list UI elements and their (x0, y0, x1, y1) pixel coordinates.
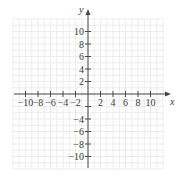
x-tick-label: −10 (18, 97, 34, 108)
y-axis-label: y (78, 4, 84, 15)
y-tick-label: −10 (68, 151, 84, 162)
y-tick-label: 6 (79, 51, 84, 62)
x-axis-label: x (169, 96, 175, 107)
y-tick-label: 4 (79, 64, 84, 75)
y-tick-label: 10 (74, 26, 84, 37)
y-tick-label: −6 (73, 126, 84, 137)
y-tick-label: −4 (73, 114, 84, 125)
x-tick-label: 4 (111, 97, 116, 108)
coordinate-plane: x y −10−8−6−4−2246810 108642−4−6−8−10 (0, 0, 183, 176)
y-tick-label: −8 (73, 139, 84, 150)
x-tick-label: −8 (33, 97, 44, 108)
y-axis-arrow-icon (86, 9, 91, 15)
y-tick-label: 2 (79, 76, 84, 87)
x-tick-label: 8 (136, 97, 141, 108)
x-tick-label: 6 (123, 97, 128, 108)
x-tick-label: 2 (98, 97, 103, 108)
x-tick-label: −2 (70, 97, 81, 108)
x-tick-label: −4 (58, 97, 69, 108)
y-tick-label: 8 (79, 39, 84, 50)
x-tick-label: −6 (45, 97, 56, 108)
x-tick-label: 10 (146, 97, 156, 108)
